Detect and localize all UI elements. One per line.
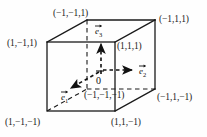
vertex-label-top-back-left: (−1,−1,1) — [53, 8, 88, 18]
vector-symbol-e1: e — [61, 92, 65, 102]
vertex-label-bottom-back-right: (−1,1,−1) — [157, 92, 192, 102]
vector-label-e2: e2 — [139, 67, 146, 79]
vector-e1-arrow — [71, 72, 99, 88]
vertex-label-top-front-right: (1,1,1) — [117, 41, 142, 51]
vertex-label-top-back-right: (−1,1,1) — [159, 14, 189, 24]
vector-arrow-accent-e3 — [95, 24, 102, 28]
vector-label-e1: e1 — [61, 93, 68, 105]
vector-subscript-e2: 2 — [143, 71, 146, 78]
cube-basis-diagram: (−1,−1,1) (−1,1,1) (1,−1,1) (1,1,1) (−1,… — [0, 0, 207, 137]
origin-label: 0 — [96, 76, 101, 86]
vertex-label-bottom-front-left: (1,−1,−1) — [5, 117, 40, 127]
vector-symbol-e2: e — [139, 66, 143, 76]
vector-arrow-accent-e1 — [61, 90, 68, 94]
vector-label-e3: e3 — [95, 27, 102, 39]
vertex-label-bottom-front-right: (1,1,−1) — [111, 117, 141, 127]
vector-subscript-e1: 1 — [65, 97, 68, 104]
vector-subscript-e3: 3 — [99, 31, 102, 38]
vertex-label-top-front-left: (1,−1,1) — [7, 38, 37, 48]
vector-symbol-e3: e — [95, 26, 99, 36]
vector-arrow-accent-e2 — [139, 64, 146, 68]
vertex-label-bottom-back-left: (−1,−1,−1) — [84, 90, 124, 100]
